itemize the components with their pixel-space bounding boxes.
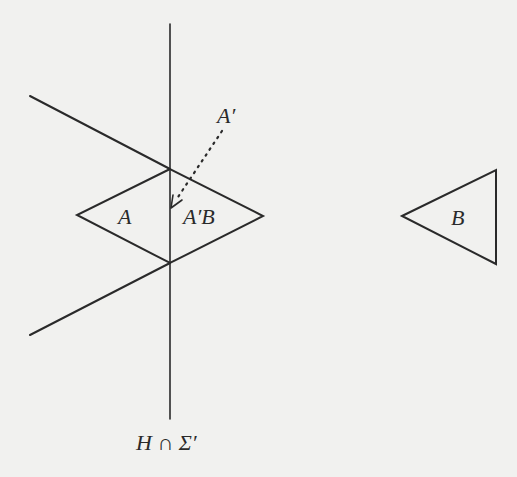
dotted-arrow [171,131,222,208]
label-a-prime: A′ [215,103,236,128]
lower-diagonal-line [30,263,170,335]
label-a-prime-b: A′B [181,204,215,229]
triangle-b-shape [402,170,496,264]
arrowhead-icon [171,195,182,208]
label-b: B [451,205,464,230]
label-a: A [116,204,132,229]
upper-diagonal-line [30,96,170,169]
reflection-diagram: A′ A A′B B H ∩ Σ′ [0,0,517,477]
label-axis-h-cap-sigma: H ∩ Σ′ [135,430,198,455]
